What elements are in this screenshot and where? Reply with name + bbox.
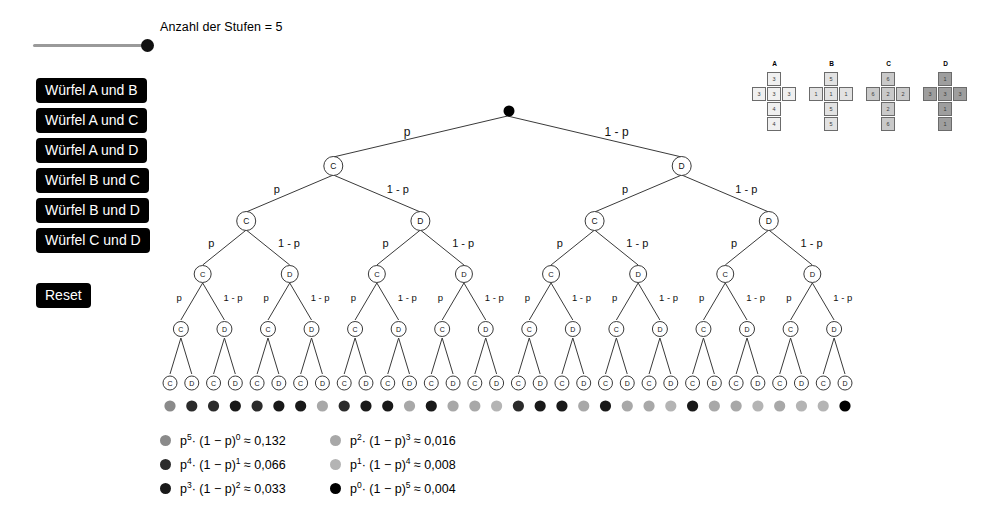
tree-node: D xyxy=(478,322,493,337)
legend-formula: p0· (1 − p)5 ≈ 0,004 xyxy=(350,480,456,496)
legend-color-dot xyxy=(330,483,341,494)
svg-text:D: D xyxy=(407,380,412,387)
tree-node: D xyxy=(533,376,547,390)
legend-formula: p3· (1 − p)2 ≈ 0,033 xyxy=(180,480,286,496)
outcome-dot xyxy=(665,400,676,411)
outcome-dot xyxy=(709,400,720,411)
tree-node: D xyxy=(490,376,504,390)
tree-node: C xyxy=(585,212,604,231)
legend-column-left: p5· (1 − p)0 ≈ 0,132p4· (1 − p)1 ≈ 0,066… xyxy=(160,428,286,500)
tree-node: D xyxy=(652,322,667,337)
svg-text:D: D xyxy=(832,326,837,333)
legend-formula: p5· (1 − p)0 ≈ 0,132 xyxy=(180,432,286,448)
edge-probability-label: 1 - p xyxy=(659,292,678,303)
edge-probability-label: p xyxy=(404,125,411,139)
outcome-dot xyxy=(186,400,197,411)
edge-probability-label: p xyxy=(438,292,443,303)
tree-node: D xyxy=(672,157,691,176)
svg-text:C: C xyxy=(603,380,608,387)
outcome-dot xyxy=(491,400,502,411)
svg-text:C: C xyxy=(527,326,532,333)
edge-probability-label: p xyxy=(612,292,617,303)
svg-text:D: D xyxy=(320,380,325,387)
svg-text:D: D xyxy=(570,326,575,333)
svg-text:D: D xyxy=(744,326,749,333)
tree-node: C xyxy=(773,376,787,390)
legend-formula: p1· (1 − p)4 ≈ 0,008 xyxy=(350,456,456,472)
legend-color-dot xyxy=(160,483,171,494)
svg-text:D: D xyxy=(276,380,281,387)
svg-text:D: D xyxy=(755,380,760,387)
outcome-dot xyxy=(426,400,437,411)
legend-color-dot xyxy=(160,435,171,446)
svg-text:D: D xyxy=(189,380,194,387)
edge-probability-label: p xyxy=(731,237,737,249)
svg-text:C: C xyxy=(516,380,521,387)
legend-color-dot xyxy=(160,459,171,470)
svg-text:C: C xyxy=(243,216,249,226)
tree-node: C xyxy=(696,322,711,337)
outcome-dot xyxy=(513,400,524,411)
svg-text:C: C xyxy=(167,380,172,387)
tree-node: D xyxy=(446,376,460,390)
edge-probability-label: 1 - p xyxy=(572,292,591,303)
outcome-dot xyxy=(469,400,480,411)
edge-probability-label: 1 - p xyxy=(485,292,504,303)
tree-node: C xyxy=(348,322,363,337)
tree-node: D xyxy=(281,266,298,283)
tree-node: D xyxy=(217,322,232,337)
outcome-dot xyxy=(360,400,371,411)
svg-text:D: D xyxy=(712,380,717,387)
legend-item: p0· (1 − p)5 ≈ 0,004 xyxy=(330,476,456,500)
edge-probability-label: p xyxy=(208,237,214,249)
outcome-dot xyxy=(295,400,306,411)
edge-probability-label: p xyxy=(622,183,628,195)
outcome-dot xyxy=(731,400,742,411)
tree-node: C xyxy=(435,322,450,337)
outcome-dot xyxy=(230,400,241,411)
outcome-dot xyxy=(818,400,829,411)
svg-text:D: D xyxy=(581,380,586,387)
tree-node: D xyxy=(185,376,199,390)
tree-node: D xyxy=(391,322,406,337)
edge-probability-label: p xyxy=(274,183,280,195)
edge-probability-label: 1 - p xyxy=(833,292,852,303)
svg-text:C: C xyxy=(614,326,619,333)
svg-text:D: D xyxy=(222,326,227,333)
edge-probability-label: p xyxy=(264,292,269,303)
svg-text:C: C xyxy=(342,380,347,387)
outcome-dot xyxy=(643,400,654,411)
svg-text:D: D xyxy=(287,270,293,279)
svg-text:D: D xyxy=(233,380,238,387)
svg-text:D: D xyxy=(363,380,368,387)
legend-color-dot xyxy=(330,459,341,470)
tree-root-node xyxy=(504,106,515,117)
tree-node: D xyxy=(455,266,472,283)
tree-node: D xyxy=(827,322,842,337)
tree-node: D xyxy=(804,266,821,283)
edge-probability-label: p xyxy=(786,292,791,303)
svg-text:C: C xyxy=(440,326,445,333)
svg-text:D: D xyxy=(679,161,685,171)
svg-text:C: C xyxy=(723,270,729,279)
tree-node: C xyxy=(173,322,188,337)
svg-text:C: C xyxy=(777,380,782,387)
outcome-dot xyxy=(251,400,262,411)
outcome-dot xyxy=(404,400,415,411)
svg-text:C: C xyxy=(298,380,303,387)
edge-probability-label: 1 - p xyxy=(398,292,417,303)
svg-text:D: D xyxy=(657,326,662,333)
tree-node: D xyxy=(304,322,319,337)
edge-probability-label: 1 - p xyxy=(735,183,757,195)
outcome-dot xyxy=(447,400,458,411)
tree-node: C xyxy=(642,376,656,390)
edge-probability-label: 1 - p xyxy=(278,237,300,249)
edge-probability-label: 1 - p xyxy=(311,292,330,303)
tree-node: C xyxy=(717,266,734,283)
tree-node: C xyxy=(294,376,308,390)
edge-probability-label: 1 - p xyxy=(224,292,243,303)
outcome-dot xyxy=(796,400,807,411)
outcome-dot xyxy=(556,400,567,411)
svg-text:D: D xyxy=(766,216,772,226)
tree-node: D xyxy=(794,376,808,390)
